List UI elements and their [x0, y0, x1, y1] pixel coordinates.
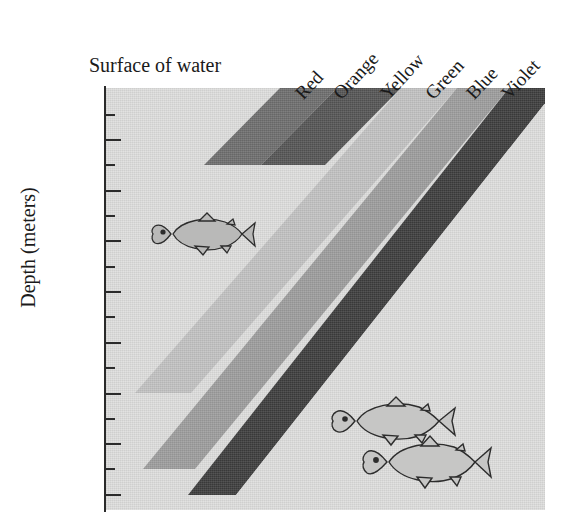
tick-major-70: [105, 443, 121, 445]
light-penetration-diagram: -10 -20 -30 -40 -50 -60 -70 -80 Depth (m…: [0, 0, 561, 526]
fish-upper: [147, 208, 257, 260]
tick-major-60: [105, 393, 121, 395]
tick-minor-5: [105, 114, 115, 116]
tick-minor-55: [105, 367, 115, 369]
tick-major-50: [105, 342, 121, 344]
tick-major-30: [105, 240, 121, 242]
depth-axis-line: [104, 86, 106, 512]
tick-minor-65: [105, 418, 115, 420]
tick-minor-15: [105, 164, 115, 166]
tick-major-40: [105, 291, 121, 293]
tick-major-80: [105, 494, 121, 496]
y-axis-title: Depth (meters): [17, 148, 40, 348]
tick-minor-45: [105, 316, 115, 318]
tick-minor-75: [105, 468, 115, 470]
tick-minor-35: [105, 266, 115, 268]
fish-lower-2: [357, 431, 493, 493]
tick-major-10: [105, 139, 121, 141]
tick-minor-25: [105, 215, 115, 217]
plot-area: [105, 88, 545, 510]
surface-of-water-label: Surface of water: [89, 54, 221, 77]
tick-major-20: [105, 190, 121, 192]
